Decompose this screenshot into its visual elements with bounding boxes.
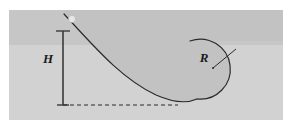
radius-label: R xyxy=(199,50,209,65)
loop-center-dot xyxy=(212,67,214,69)
height-label: H xyxy=(42,51,54,66)
figure-root: H R xyxy=(0,0,292,130)
ball xyxy=(68,15,75,22)
ramp-loop-figure: H R xyxy=(0,0,292,130)
